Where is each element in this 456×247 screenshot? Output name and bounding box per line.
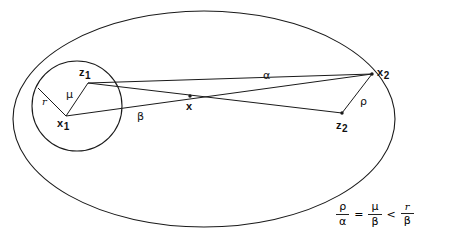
fraction-numerator-mu: μ <box>369 201 382 213</box>
point-label-x2-subscript: 2 <box>384 70 390 81</box>
fraction-denominator-alpha: α <box>336 216 349 228</box>
formula-operator-less-than: < <box>387 208 396 221</box>
length-label-beta: β <box>137 111 144 122</box>
length-label-alpha: α <box>263 70 270 81</box>
length-label-rho: ρ <box>360 96 367 107</box>
fraction-numerator-r: r <box>402 202 413 213</box>
segment-rho-z2-x2 <box>342 74 372 113</box>
segment-alpha-z1-x2 <box>88 74 372 83</box>
point-label-z2: z2 <box>336 120 348 134</box>
point-label-x2: x2 <box>377 67 389 81</box>
point-label-z2-subscript: 2 <box>342 123 348 134</box>
fraction-r-over-beta: r β <box>401 202 414 228</box>
point-label-x: x <box>186 101 192 112</box>
length-label-r: r <box>42 97 47 107</box>
point-label-z1-subscript: 1 <box>85 70 91 81</box>
length-label-mu: μ <box>66 89 73 100</box>
segment-z1-z2 <box>88 83 342 113</box>
fraction-denominator-beta: β <box>401 215 414 227</box>
point-marker-x2 <box>370 72 373 75</box>
fraction-denominator-beta: β <box>368 216 381 228</box>
fraction-numerator-rho: ρ <box>336 201 349 213</box>
segment-beta-x1-x2 <box>66 74 372 116</box>
point-label-x1: x1 <box>57 118 69 132</box>
fraction-mu-over-beta: μ β <box>368 201 381 228</box>
formula-operator-equals: = <box>354 208 363 221</box>
fraction-rho-over-alpha: ρ α <box>336 201 349 228</box>
point-label-z1: z1 <box>79 67 91 81</box>
point-marker-x <box>188 94 191 97</box>
point-label-x1-subscript: 1 <box>64 121 70 132</box>
formula-expression: ρ α = μ β < r β <box>336 201 414 228</box>
point-marker-z2 <box>340 111 343 114</box>
